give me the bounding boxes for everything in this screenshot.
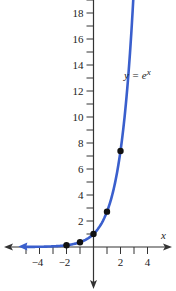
y-tick-label: 4 <box>78 189 84 201</box>
data-point <box>90 231 96 237</box>
data-point <box>63 242 69 248</box>
x-tick-label: 4 <box>145 256 151 268</box>
y-tick-label: 18 <box>73 7 85 19</box>
labels: y = exx <box>123 67 166 241</box>
y-tick-label: 6 <box>78 163 84 175</box>
x-tick-label: −2 <box>59 256 71 268</box>
x-tick-label: 2 <box>118 256 124 268</box>
data-point <box>77 239 83 245</box>
y-tick-label: 16 <box>73 33 85 45</box>
function-label-exponent: x <box>146 67 151 77</box>
y-tick-label: 2 <box>78 215 84 227</box>
data-point <box>117 148 123 154</box>
y-tick-label: 8 <box>78 137 84 149</box>
y-tick-label: 14 <box>73 59 85 71</box>
x-tick-label: −4 <box>32 256 44 268</box>
function-label: y = ex <box>123 67 151 81</box>
curve-left-arrow-icon <box>18 243 27 251</box>
exponential-chart: −4−22424681012141618 y = exx <box>0 0 176 291</box>
y-tick-label: 10 <box>73 111 85 123</box>
data-point <box>104 208 110 214</box>
x-axis-label: x <box>160 229 166 241</box>
y-tick-label: 12 <box>73 85 84 97</box>
